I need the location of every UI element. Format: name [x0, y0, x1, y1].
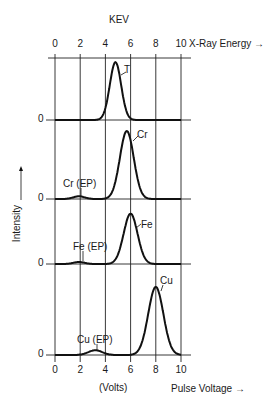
peak-label-cr: Cr	[137, 129, 148, 140]
gridlines	[46, 54, 191, 362]
bottom-tick-label: 0	[52, 364, 58, 375]
top-tick-label: 0	[52, 38, 58, 49]
spectrum-curves	[55, 62, 181, 355]
peak-label-fe-ep: Fe (EP)	[73, 241, 107, 252]
baseline-zero-cu: 0	[38, 348, 44, 359]
intensity-label: Intensity	[11, 205, 22, 242]
label-leaders	[81, 72, 163, 351]
bottom-tick-label: 4	[103, 364, 109, 375]
spectrum-curve-t	[55, 62, 181, 120]
peak-label-cr-ep: Cr (EP)	[63, 178, 96, 189]
top-tick-label: 8	[153, 38, 159, 49]
bottom-tick-label: 2	[77, 364, 83, 375]
volts-label: (Volts)	[99, 382, 127, 393]
baseline-zero-t: 0	[38, 113, 44, 124]
baseline-zero-cr: 0	[38, 192, 44, 203]
top-tick-label: 4	[103, 38, 109, 49]
bottom-tick-label: 10	[175, 364, 186, 375]
top-tick-label: 10	[175, 38, 186, 49]
peak-label-cu-ep: Cu (EP)	[77, 334, 113, 345]
top-tick-label: 2	[77, 38, 83, 49]
bottom-tick-label: 8	[153, 364, 159, 375]
bottom-tick-label: 6	[128, 364, 134, 375]
kev-title: KEV	[109, 14, 129, 25]
spectrum-curve-fe	[55, 214, 181, 264]
xray-energy-label: X-Ray Energy →	[189, 38, 264, 49]
pulse-voltage-label: Pulse Voltage →	[171, 383, 245, 394]
peak-label-fe: Fe	[141, 219, 153, 230]
peak-label-cu: Cu	[160, 275, 173, 286]
spectrum-curve-cu	[55, 287, 181, 355]
top-tick-label: 6	[128, 38, 134, 49]
peak-label-t: T	[124, 64, 130, 75]
intensity-arrowhead-icon	[19, 166, 23, 171]
baseline-zero-fe: 0	[38, 257, 44, 268]
